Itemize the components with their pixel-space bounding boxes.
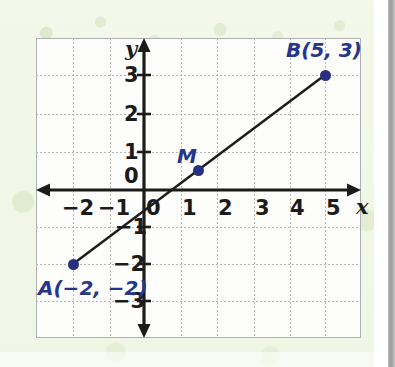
y-tick-label-2: 2 [124, 104, 139, 125]
x-tick-label-2: 2 [218, 198, 233, 219]
y-tick-label--1: −1 [115, 217, 147, 238]
point-a-label: A(−2, −2) [38, 278, 148, 298]
page-bottom-margin [0, 352, 374, 367]
x-tick-label--2: −2 [62, 198, 94, 219]
y-tick-label-1: 1 [124, 142, 139, 163]
y-tick-label-0: 0 [124, 166, 139, 187]
coordinate-plot: −2 −1 0 1 2 3 4 5 x y 3 2 1 0 −1 −2 −3 A… [36, 38, 361, 338]
x-axis-label: x [356, 196, 369, 217]
figure-page: −2 −1 0 1 2 3 4 5 x y 3 2 1 0 −1 −2 −3 A… [0, 0, 395, 367]
point-a[interactable] [68, 259, 79, 270]
x-tick-label-4: 4 [290, 198, 305, 219]
page-right-margin [374, 0, 388, 367]
y-tick-label-3: 3 [124, 65, 139, 86]
page-edge-strip [388, 0, 395, 367]
x-tick-label-3: 3 [255, 198, 270, 219]
x-tick-label-5: 5 [326, 198, 341, 219]
point-b-label: B(5, 3) [286, 40, 362, 60]
point-b[interactable] [320, 70, 331, 81]
x-tick-label-0: 0 [146, 198, 161, 219]
x-tick-label-1: 1 [182, 198, 197, 219]
point-m-label: M [177, 146, 197, 166]
y-axis-label: y [125, 38, 137, 59]
y-tick-label--2: −2 [113, 254, 145, 275]
